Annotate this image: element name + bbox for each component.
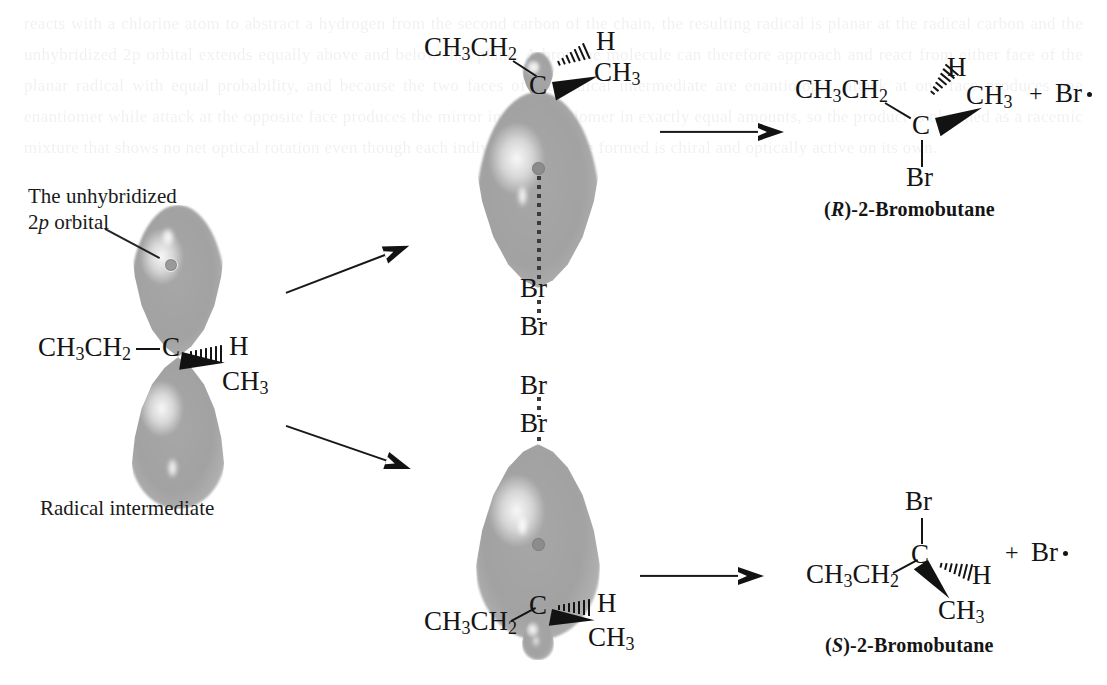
bottom-pathway-hydrogen-label: H — [597, 590, 617, 617]
arrow-head — [758, 123, 784, 141]
product-r-hydrogen-label: H — [947, 54, 967, 81]
top-pathway-forming-bond-dotted — [537, 176, 541, 282]
orbital-callout-line1: The unhybridized — [28, 184, 177, 208]
orbital-callout-label: The unhybridized 2p orbital — [28, 183, 177, 235]
product-s-plus-sign: + — [1005, 539, 1019, 566]
product-s-hydrogen-label: H — [972, 562, 992, 589]
product-r-bromine-label: Br — [906, 164, 933, 191]
ethyl-sub-3: 3 — [462, 618, 471, 638]
radical-center-carbon-label: C — [162, 334, 180, 361]
arrow-shaft — [286, 425, 389, 462]
ethyl-ch: CH — [806, 559, 844, 589]
radical-electron-dot-icon — [1063, 551, 1068, 556]
p-orbital-bottom-lobe — [130, 357, 226, 509]
bottom-pathway-methyl-label: CH3 — [588, 624, 635, 653]
methyl-sub-3: 3 — [976, 607, 985, 627]
reaction-arrow-to-bottom-pathway — [283, 417, 414, 479]
methyl-ch: CH — [594, 57, 632, 87]
ethyl-ch2: CH — [853, 559, 891, 589]
ethyl-ch: CH — [424, 32, 462, 62]
bottom-pathway-node-dot — [532, 538, 545, 551]
product-r-name-descriptor: R — [831, 198, 845, 220]
product-s-name-descriptor: S — [832, 634, 843, 656]
top-pathway-bromine-far-label: Br — [520, 313, 547, 340]
radical-ethyl-carbon-bond — [136, 348, 160, 350]
ethyl-ch: CH — [424, 606, 462, 636]
methyl-ch: CH — [938, 595, 976, 625]
ethyl-sub-2: 2 — [890, 571, 899, 591]
ethyl-ch2: CH — [85, 332, 123, 362]
product-r-byproduct-bromine-radical: Br — [1055, 80, 1092, 107]
top-pathway-hydrogen-label: H — [596, 28, 616, 55]
ethyl-sub-3: 3 — [462, 44, 471, 64]
top-pathway-hashed-bond-to-h — [551, 37, 597, 75]
radical-intermediate-caption: Radical intermediate — [40, 495, 214, 521]
product-r-name-prefix: ( — [824, 198, 831, 220]
arrow-head — [383, 452, 413, 477]
product-s-byproduct-bromine-radical: Br — [1031, 539, 1068, 566]
ethyl-sub-3: 3 — [833, 86, 842, 106]
orbital-callout-line2-italic-p: p — [39, 210, 50, 234]
product-r-methyl-label: CH3 — [966, 82, 1013, 111]
product-s-name-suffix: )-2-Bromobutane — [843, 634, 993, 656]
byproduct-br: Br — [1055, 78, 1082, 108]
reaction-arrow-to-r-product — [660, 122, 784, 142]
product-s-name-label: (S)-2-Bromobutane — [825, 634, 994, 657]
top-pathway-node-dot — [532, 162, 545, 175]
bottom-pathway-ethyl-label: CH3CH2 — [424, 608, 517, 637]
product-r-plus-sign: + — [1029, 80, 1043, 107]
radical-ethyl-label: CH3CH2 — [38, 334, 131, 363]
bottom-pathway-bromine-near-label: Br — [520, 410, 547, 437]
methyl-sub-3: 3 — [632, 69, 641, 89]
methyl-sub-3: 3 — [626, 634, 635, 654]
arrow-head — [382, 237, 413, 263]
arrow-shaft — [286, 253, 388, 294]
top-pathway-bromine-near-label: Br — [520, 275, 547, 302]
product-s-ethyl-label: CH3CH2 — [806, 561, 899, 590]
methyl-sub-3: 3 — [260, 378, 269, 398]
radical-hydrogen-label: H — [229, 333, 249, 360]
top-pathway-center-carbon-label: C — [529, 72, 547, 99]
figure-canvas: reacts with a chlorine atom to abstract … — [0, 0, 1107, 685]
bottom-pathway-center-carbon-label: C — [529, 592, 547, 619]
product-r-ethyl-carbon-bond — [884, 102, 911, 119]
ethyl-sub-3: 3 — [76, 344, 85, 364]
bottom-pathway-bromine-far-label: Br — [520, 372, 547, 399]
reaction-arrow-to-s-product — [640, 566, 764, 586]
arrow-shaft — [640, 575, 740, 577]
orbital-callout-line2-suffix: orbital — [49, 210, 109, 234]
byproduct-br: Br — [1031, 537, 1058, 567]
radical-methyl-label: CH3 — [222, 368, 269, 397]
product-r-name-label: (R)-2-Bromobutane — [824, 198, 995, 221]
radical-electron-dot-icon — [1087, 92, 1092, 97]
product-s-name-prefix: ( — [825, 634, 832, 656]
ethyl-sub-2: 2 — [122, 344, 131, 364]
ethyl-ch2: CH — [471, 606, 509, 636]
product-s-methyl-label: CH3 — [938, 597, 985, 626]
ethyl-ch2: CH — [471, 32, 509, 62]
arrow-head — [738, 567, 764, 585]
product-r-ethyl-label: CH3CH2 — [795, 76, 888, 105]
ethyl-ch: CH — [795, 74, 833, 104]
ethyl-ch: CH — [38, 332, 76, 362]
product-s-bromine-label: Br — [905, 488, 932, 515]
ethyl-ch2: CH — [842, 74, 880, 104]
p-orbital-node-dot — [164, 258, 178, 272]
methyl-ch: CH — [222, 366, 260, 396]
ethyl-sub-3: 3 — [844, 571, 853, 591]
methyl-ch: CH — [966, 80, 1004, 110]
top-pathway-ethyl-label: CH3CH2 — [424, 34, 517, 63]
orbital-callout-line2-prefix: 2 — [28, 210, 39, 234]
methyl-sub-3: 3 — [1004, 92, 1013, 112]
product-r-name-suffix: )-2-Bromobutane — [844, 198, 994, 220]
top-pathway-methyl-label: CH3 — [594, 59, 641, 88]
product-r-center-carbon-label: C — [912, 112, 930, 139]
methyl-ch: CH — [588, 622, 626, 652]
arrow-shaft — [660, 131, 760, 133]
reaction-arrow-to-top-pathway — [282, 236, 412, 302]
